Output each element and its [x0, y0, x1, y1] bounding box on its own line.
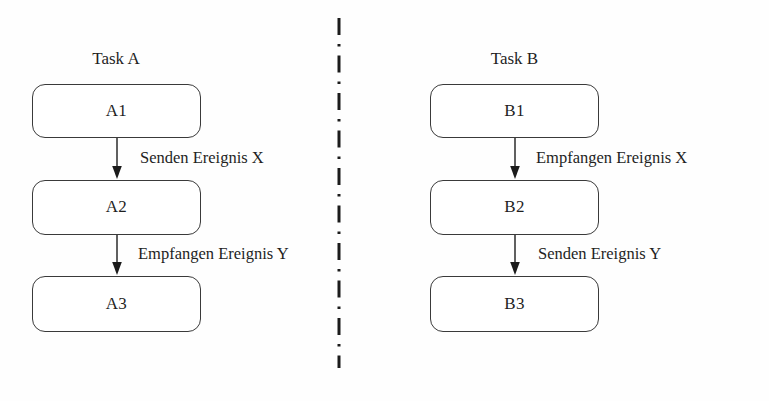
- node-a3-label: A3: [106, 295, 127, 312]
- edge-label-a2-a3: Empfangen Ereignis Y: [138, 246, 289, 263]
- node-b3-label: B3: [504, 295, 524, 312]
- edge-label-a1-a2: Senden Ereignis X: [140, 150, 264, 167]
- connector-b1-b2: [506, 138, 524, 180]
- edge-label-b2-b3: Senden Ereignis Y: [538, 246, 661, 263]
- node-b1[interactable]: B1: [430, 84, 599, 138]
- task-a-title: Task A: [32, 50, 200, 67]
- node-b2-label: B2: [504, 198, 524, 215]
- node-a1-label: A1: [106, 102, 127, 119]
- node-a2[interactable]: A2: [32, 180, 201, 235]
- node-a1[interactable]: A1: [32, 84, 201, 138]
- node-a2-label: A2: [106, 198, 127, 215]
- diagram-canvas: Task A A1 Senden Ereignis X A2 Empfangen…: [0, 0, 769, 401]
- edge-label-b1-b2: Empfangen Ereignis X: [536, 150, 687, 167]
- connector-a2-a3: [108, 235, 126, 276]
- connector-a1-a2: [108, 138, 126, 180]
- task-separator-divider: [335, 16, 343, 370]
- connector-b2-b3: [506, 235, 524, 276]
- node-b1-label: B1: [504, 102, 524, 119]
- node-b3[interactable]: B3: [430, 276, 599, 332]
- task-b-title: Task B: [430, 50, 599, 67]
- node-a3[interactable]: A3: [32, 276, 201, 332]
- node-b2[interactable]: B2: [430, 180, 599, 235]
